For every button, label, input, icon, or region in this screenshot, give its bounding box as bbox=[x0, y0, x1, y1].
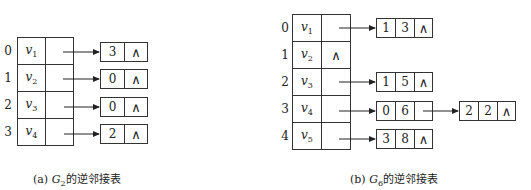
pointer-arrows bbox=[0, 0, 531, 190]
